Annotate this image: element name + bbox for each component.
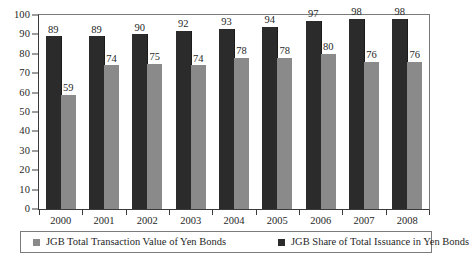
bar: 94 [262, 27, 278, 209]
y-axis-tick-label: 10 [19, 184, 30, 195]
x-axis-tick-label: 2006 [310, 216, 331, 227]
plot-area: 895989749075927493789478978098769876 [39, 15, 429, 209]
x-tick-mark [256, 210, 257, 215]
bar-group: 9876 [342, 15, 385, 209]
bar: 93 [219, 29, 235, 209]
x-axis: 200020012002200320042005200620072008 [38, 210, 430, 230]
bar-value-label: 97 [308, 9, 319, 20]
bar-group: 9478 [256, 15, 299, 209]
bar: 78 [277, 58, 292, 209]
x-tick-mark [212, 210, 213, 215]
bar: 92 [176, 31, 192, 209]
bar-value-label: 74 [193, 54, 204, 65]
bar-group: 9780 [299, 15, 342, 209]
x-axis-tick-label: 2001 [94, 216, 115, 227]
legend-label: JGB Share of Total Issuance in Yen Bonds [291, 237, 469, 248]
x-tick-mark [299, 210, 300, 215]
bar: 89 [89, 36, 105, 209]
x-axis-tick-label: 2007 [354, 216, 375, 227]
bar-value-label: 93 [221, 17, 232, 28]
bar-group: 8974 [82, 15, 125, 209]
x-tick-mark [429, 210, 430, 215]
bar: 75 [147, 64, 162, 210]
x-tick-mark [342, 210, 343, 215]
chart-legend: JGB Total Transaction Value of Yen Bonds… [20, 231, 432, 253]
y-axis: 1009080706050403020100 [0, 14, 38, 210]
bar: 98 [349, 19, 365, 209]
bar: 76 [364, 62, 379, 209]
bar-value-label: 75 [150, 52, 161, 63]
bar-group: 9274 [169, 15, 212, 209]
bar-value-label: 74 [106, 54, 117, 65]
legend-entry[interactable]: JGB Total Transaction Value of Yen Bonds [33, 237, 226, 248]
x-tick-mark [126, 210, 127, 215]
y-axis-tick-label: 0 [25, 204, 30, 215]
y-axis-tick-label: 30 [19, 146, 30, 157]
bar-value-label: 80 [323, 42, 334, 53]
x-axis-tick-label: 2005 [267, 216, 288, 227]
bar-group: 9075 [126, 15, 169, 209]
legend-swatch-icon [278, 239, 285, 246]
x-axis-tick-label: 2000 [50, 216, 71, 227]
legend-label: JGB Total Transaction Value of Yen Bonds [46, 237, 226, 248]
bar-group: 8959 [39, 15, 82, 209]
bar-value-label: 92 [178, 19, 189, 30]
x-tick-mark [386, 210, 387, 215]
bar-value-label: 76 [410, 50, 421, 61]
bar: 97 [306, 21, 322, 209]
bar-value-label: 78 [280, 46, 291, 57]
bar-value-label: 89 [91, 25, 102, 36]
bar: 74 [191, 65, 206, 209]
chart-caption [8, 258, 438, 269]
bar-value-label: 90 [135, 23, 146, 34]
legend-entry[interactable]: JGB Share of Total Issuance in Yen Bonds [278, 237, 469, 248]
bar-group: 9876 [386, 15, 429, 209]
y-axis-tick-label: 70 [19, 68, 30, 79]
x-axis-tick-label: 2004 [224, 216, 245, 227]
bar-value-label: 78 [236, 46, 247, 57]
bar-value-label: 89 [48, 25, 59, 36]
bar: 74 [104, 65, 119, 209]
x-axis-tick-label: 2003 [180, 216, 201, 227]
bar-value-label: 76 [366, 50, 377, 61]
bar-value-label: 59 [63, 83, 74, 94]
bar: 89 [46, 36, 62, 209]
bar: 78 [234, 58, 249, 209]
bar-value-label: 98 [395, 7, 406, 18]
bar: 59 [61, 95, 76, 209]
bar: 80 [321, 54, 336, 209]
x-axis-tick-label: 2008 [397, 216, 418, 227]
y-axis-tick-label: 100 [14, 10, 30, 21]
y-axis-tick-label: 20 [19, 165, 30, 176]
x-tick-mark [82, 210, 83, 215]
bar-value-label: 98 [351, 7, 362, 18]
x-axis-tick-label: 2002 [137, 216, 158, 227]
y-axis-tick-label: 40 [19, 126, 30, 137]
bar: 98 [392, 19, 408, 209]
y-axis-tick-label: 90 [19, 29, 30, 40]
bar-value-label: 94 [265, 15, 276, 26]
bar: 90 [132, 34, 148, 209]
legend-swatch-icon [33, 239, 40, 246]
bar: 76 [407, 62, 422, 209]
y-axis-tick-label: 80 [19, 49, 30, 60]
y-axis-tick-label: 60 [19, 87, 30, 98]
x-tick-mark [39, 210, 40, 215]
x-tick-mark [169, 210, 170, 215]
y-axis-tick-label: 50 [19, 107, 30, 118]
bar-group: 9378 [212, 15, 255, 209]
